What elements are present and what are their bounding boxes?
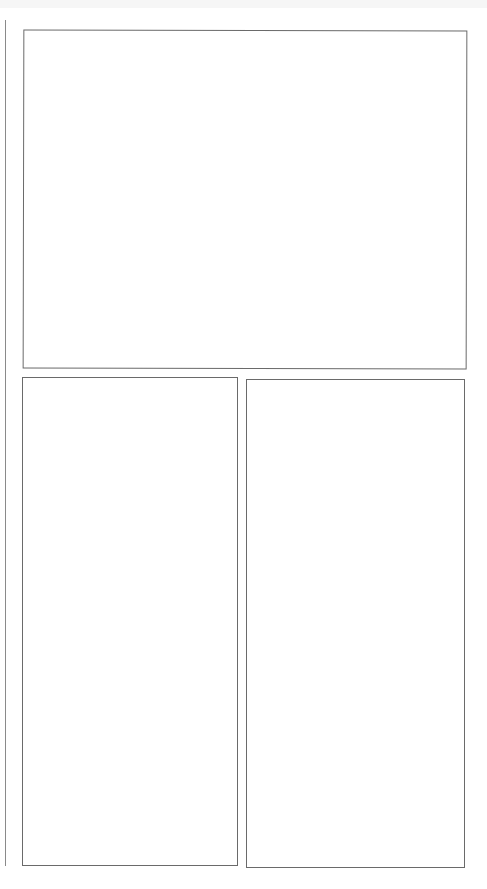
scan-top-band — [0, 0, 487, 8]
margin-rule — [5, 20, 6, 866]
panel-top — [23, 30, 468, 370]
panel-bottom-right — [246, 379, 465, 868]
panel-bottom-left — [22, 377, 238, 866]
